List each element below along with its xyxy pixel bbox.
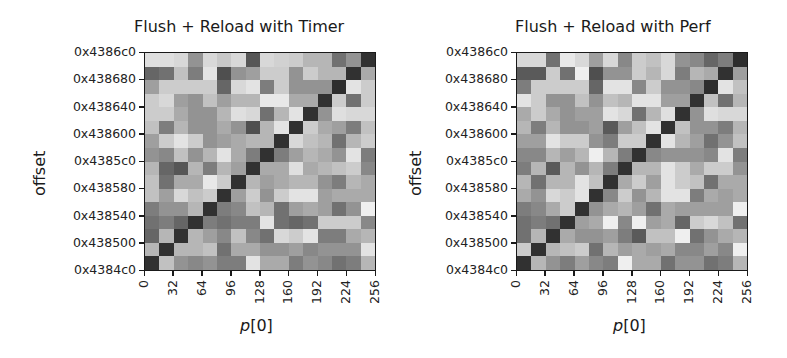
heatmap-cell xyxy=(675,243,689,257)
y-tick-label: 0x438680 xyxy=(408,72,508,86)
heatmap-cell xyxy=(531,53,545,67)
heatmap-cell xyxy=(531,121,545,135)
heatmap-cell xyxy=(661,175,675,189)
heatmap-cell xyxy=(517,175,531,189)
heatmap-cell xyxy=(704,229,718,243)
heatmap-cell xyxy=(661,243,675,257)
y-tick-label: 0x4384c0 xyxy=(408,263,508,277)
heatmap-cell xyxy=(632,175,646,189)
heatmap-cell xyxy=(733,148,747,162)
heatmap-cell xyxy=(517,162,531,176)
heatmap-cell xyxy=(661,189,675,203)
heatmap-cell xyxy=(517,256,531,270)
heatmap-cell xyxy=(531,202,545,216)
heatmap-cell xyxy=(690,202,704,216)
heatmap-cell xyxy=(675,107,689,121)
heatmap-cell xyxy=(575,243,589,257)
heatmap-cell xyxy=(618,256,632,270)
heatmap-cell xyxy=(733,243,747,257)
x-tick-mark xyxy=(602,271,604,276)
heatmap-cell xyxy=(675,202,689,216)
heatmap-cell xyxy=(675,94,689,108)
heatmap-cell xyxy=(704,53,718,67)
heatmap-cell xyxy=(560,148,574,162)
heatmap-cell xyxy=(589,134,603,148)
heatmap-cell xyxy=(718,121,732,135)
heatmap-cell xyxy=(675,216,689,230)
heatmap-cell xyxy=(517,67,531,81)
heatmap-cell xyxy=(733,256,747,270)
heatmap-cell xyxy=(618,80,632,94)
heatmap-cell xyxy=(575,80,589,94)
heatmap-cell xyxy=(531,134,545,148)
heatmap-cell xyxy=(632,80,646,94)
heatmap-cell xyxy=(704,243,718,257)
heatmap-cell xyxy=(603,243,617,257)
heatmap-cell xyxy=(646,134,660,148)
heatmap-cell xyxy=(704,175,718,189)
x-tick-label: 256 xyxy=(740,280,754,304)
heatmap-cell xyxy=(632,53,646,67)
heatmap-cell xyxy=(560,53,574,67)
heatmap-cell xyxy=(589,67,603,81)
heatmap-cell xyxy=(589,148,603,162)
heatmap-cell xyxy=(546,256,560,270)
heatmap-cell xyxy=(646,80,660,94)
heatmap-cell xyxy=(575,175,589,189)
heatmap-cell xyxy=(690,94,704,108)
heatmap-cell xyxy=(560,107,574,121)
heatmap-cell xyxy=(560,256,574,270)
heatmap-cell xyxy=(589,216,603,230)
heatmap-cell xyxy=(675,67,689,81)
heatmap-cell xyxy=(575,189,589,203)
heatmap-cell xyxy=(603,94,617,108)
heatmap-cell xyxy=(632,134,646,148)
heatmap-cell xyxy=(718,134,732,148)
heatmap-cell xyxy=(531,107,545,121)
x-tick-mark xyxy=(544,271,546,276)
heatmap-cell xyxy=(690,256,704,270)
heatmap-cell xyxy=(704,162,718,176)
heatmap-cell xyxy=(589,175,603,189)
x-tick-mark xyxy=(573,271,575,276)
heatmap-cell xyxy=(603,134,617,148)
x-tick-mark xyxy=(689,271,691,276)
heatmap-cell xyxy=(675,175,689,189)
heatmap-cell xyxy=(704,67,718,81)
heatmap-cell xyxy=(560,94,574,108)
heatmap-cell xyxy=(575,202,589,216)
y-tick-mark xyxy=(511,79,516,81)
heatmap-cell xyxy=(704,189,718,203)
heatmap-cell xyxy=(618,189,632,203)
x-axis-label-var: p xyxy=(613,316,623,335)
heatmap-cell xyxy=(603,256,617,270)
y-tick-label: 0x4385c0 xyxy=(408,154,508,168)
heatmap-cell xyxy=(531,229,545,243)
heatmap-cell xyxy=(589,256,603,270)
heatmap-cell xyxy=(517,134,531,148)
heatmap-cell xyxy=(531,67,545,81)
heatmap-cell xyxy=(718,202,732,216)
heatmap-cell xyxy=(603,162,617,176)
y-tick-mark xyxy=(511,106,516,108)
heatmap-cell xyxy=(546,216,560,230)
heatmap-cell xyxy=(718,175,732,189)
x-tick-mark xyxy=(747,271,749,276)
heatmap-cell xyxy=(718,229,732,243)
heatmap-cell xyxy=(560,216,574,230)
y-tick-mark xyxy=(511,215,516,217)
heatmap-cell xyxy=(690,243,704,257)
heatmap-cell xyxy=(560,243,574,257)
heatmap-cell xyxy=(733,162,747,176)
heatmap-cell xyxy=(718,53,732,67)
heatmap-cell xyxy=(560,134,574,148)
heatmap-cell xyxy=(517,189,531,203)
x-axis-label-index: [0] xyxy=(623,316,646,335)
heatmap-cell xyxy=(575,53,589,67)
heatmap-cell xyxy=(690,121,704,135)
heatmap-cell xyxy=(546,53,560,67)
heatmap-cell xyxy=(718,80,732,94)
heatmap-cell xyxy=(603,229,617,243)
heatmap-cell xyxy=(704,202,718,216)
heatmap-cell xyxy=(733,134,747,148)
